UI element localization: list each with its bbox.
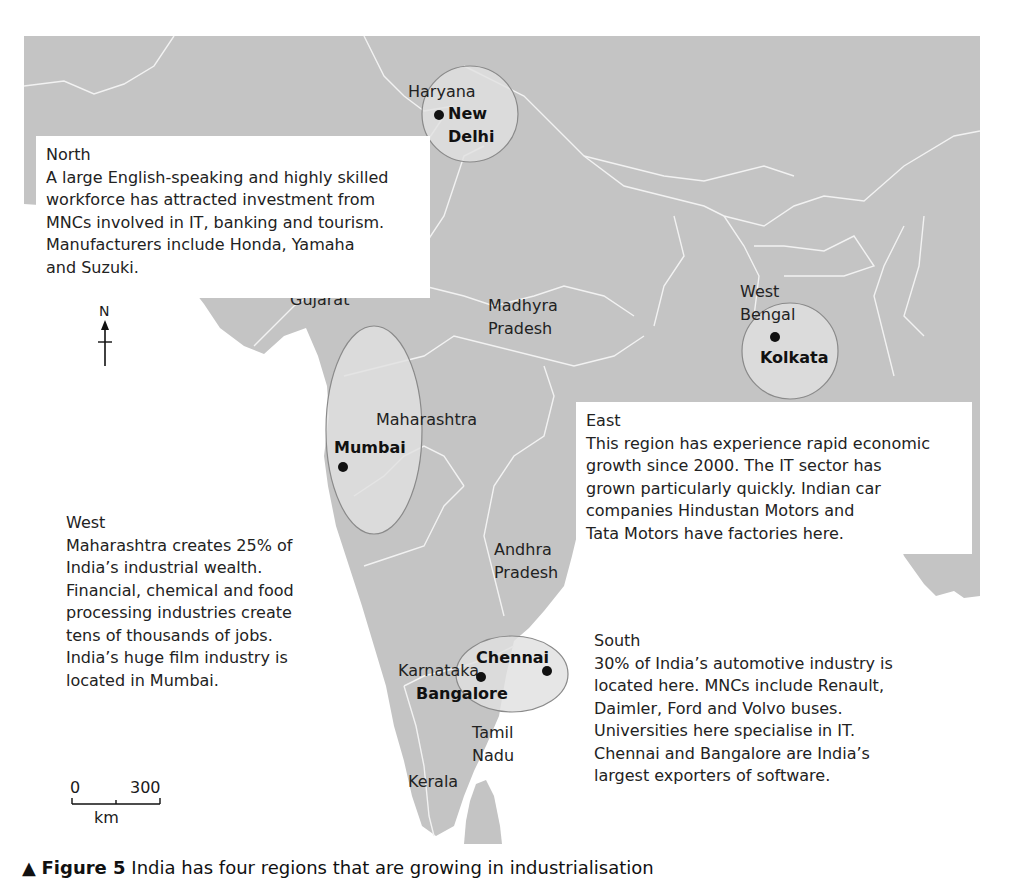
sri-lanka (464, 780, 502, 844)
caption-text: India has four regions that are growing … (131, 857, 653, 878)
info-box-east: East This region has experience rapid ec… (576, 402, 972, 554)
south-body: 30% of India’s automotive industry is lo… (594, 653, 958, 788)
new-delhi-dot-icon (434, 110, 444, 120)
label-tamil-nadu-line2: Nadu (472, 746, 514, 766)
city-kolkata: Kolkata (760, 348, 828, 368)
east-title: East (586, 410, 962, 433)
label-west-bengal-line2: Bengal (740, 305, 795, 325)
west-body: Maharashtra creates 25% of India’s indus… (66, 535, 336, 693)
south-title: South (594, 630, 958, 653)
info-box-south: South 30% of India’s automotive industry… (584, 622, 968, 802)
city-mumbai: Mumbai (334, 438, 406, 458)
north-title: North (46, 144, 420, 167)
mumbai-region-ellipse (326, 326, 422, 534)
label-maharashtra: Maharashtra (376, 410, 477, 430)
label-madhya-pradesh-line2: Pradesh (488, 319, 552, 339)
india-map: Haryana Gujarat Madhyra Pradesh West Ben… (24, 36, 980, 844)
mumbai-dot-icon (338, 462, 348, 472)
label-andhra-pradesh-line1: Andhra (494, 540, 552, 560)
label-kerala: Kerala (408, 772, 458, 792)
label-tamil-nadu-line1: Tamil (472, 723, 513, 743)
bangalore-dot-icon (476, 672, 486, 682)
info-box-north: North A large English-speaking and highl… (36, 136, 430, 298)
info-box-west: West Maharashtra creates 25% of India’s … (56, 504, 346, 690)
north-body: A large English-speaking and highly skil… (46, 167, 420, 280)
label-west-bengal-line1: West (740, 282, 779, 302)
city-chennai: Chennai (476, 648, 549, 668)
chennai-dot-icon (542, 666, 552, 676)
scale-unit: km (94, 808, 119, 827)
city-bangalore: Bangalore (416, 684, 508, 704)
label-karnataka: Karnataka (398, 661, 479, 681)
figure-caption: ▲ Figure 5 India has four regions that a… (22, 856, 654, 880)
north-arrow-icon: N (96, 304, 116, 394)
north-arrow-label: N (99, 304, 109, 318)
city-new-delhi-line1: New (448, 104, 487, 124)
kolkata-dot-icon (770, 332, 780, 342)
west-title: West (66, 512, 336, 535)
label-haryana: Haryana (408, 82, 476, 102)
caption-marker-icon: ▲ (22, 857, 36, 878)
label-andhra-pradesh-line2: Pradesh (494, 563, 558, 583)
label-madhya-pradesh-line1: Madhyra (488, 296, 558, 316)
city-new-delhi-line2: Delhi (448, 127, 495, 147)
east-body: This region has experience rapid economi… (586, 433, 962, 546)
scale-bar: 0 300 km (50, 778, 180, 838)
caption-figure-number: Figure 5 (42, 857, 126, 878)
